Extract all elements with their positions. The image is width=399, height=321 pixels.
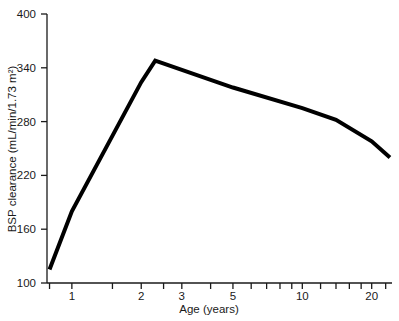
x-tick-label: 5	[230, 290, 236, 302]
x-tick-label: 3	[179, 290, 185, 302]
y-tick-label: 340	[17, 62, 36, 74]
y-axis-title: BSP clearance (mL/min/1.73 m²)	[6, 66, 18, 233]
y-tick-label: 100	[17, 277, 36, 289]
x-tick-label: 1	[69, 290, 75, 302]
x-axis-title: Age (years)	[179, 303, 239, 315]
chart-background	[0, 0, 399, 321]
y-tick-label: 220	[17, 169, 36, 181]
y-tick-label: 160	[17, 223, 36, 235]
y-tick-label: 400	[17, 8, 36, 20]
y-tick-label: 280	[17, 116, 36, 128]
x-tick-label: 2	[138, 290, 144, 302]
bsp-clearance-chart: 100160220280340400 12351020 Age (years) …	[0, 0, 399, 321]
x-tick-label: 10	[296, 290, 309, 302]
x-tick-label: 20	[365, 290, 378, 302]
